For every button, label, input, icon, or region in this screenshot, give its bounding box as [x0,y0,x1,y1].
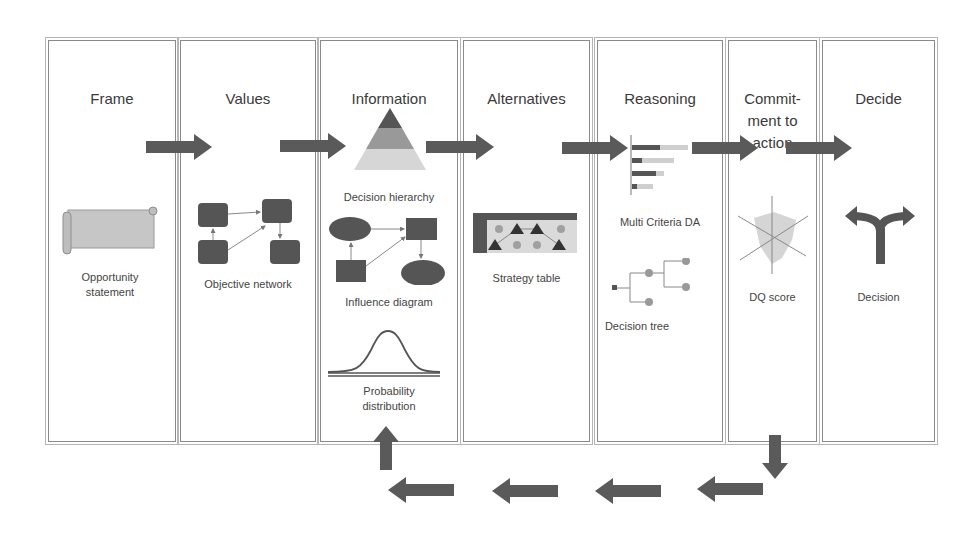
stage-title: Reasoning [598,89,722,109]
probability-distribution-label: Probability distribution [320,384,458,414]
strategy-table-icon [473,213,577,253]
arrow-up-icon [373,426,399,470]
objective-network-icon [195,198,305,268]
decision-hierarchy-icon [350,106,430,172]
stage-title-line: ment to [729,111,816,131]
opportunity-statement-label: Opportunity statement [60,270,160,300]
decision-label: Decision [822,290,935,305]
arrow-right-icon [786,135,852,161]
influence-diagram-label: Influence diagram [320,295,458,310]
arrow-right-icon [280,133,346,159]
arrow-left-icon [595,478,661,504]
multi-criteria-da-label: Multi Criteria DA [597,215,723,230]
stage-title: Frame [49,89,175,109]
decision-tree-label: Decision tree [597,319,677,334]
stage-title-line: Commit- [729,89,816,109]
influence-diagram-icon [328,215,448,285]
arrow-left-icon [492,478,558,504]
decision-fork-icon [845,206,915,266]
dq-score-radar-icon [734,196,812,274]
arrow-right-icon [692,135,758,161]
decision-tree-icon [612,258,702,308]
decision-hierarchy-label: Decision hierarchy [320,190,458,205]
multi-criteria-bar-icon [628,135,690,197]
stage-title: Decide [823,89,934,109]
scroll-icon [62,206,158,256]
arrow-left-icon [697,476,763,502]
arrow-right-icon [562,135,628,161]
arrow-left-icon [388,477,454,503]
strategy-table-label: Strategy table [463,271,590,286]
arrow-right-icon [426,134,494,160]
stage-title: Alternatives [464,89,589,109]
dq-score-label: DQ score [728,290,817,305]
stage-reasoning: Reasoning [597,40,723,442]
probability-distribution-icon [326,325,442,377]
arrow-down-icon [762,435,788,479]
objective-network-label: Objective network [180,277,316,292]
arrow-right-icon [146,134,212,160]
stage-title: Values [181,89,315,109]
